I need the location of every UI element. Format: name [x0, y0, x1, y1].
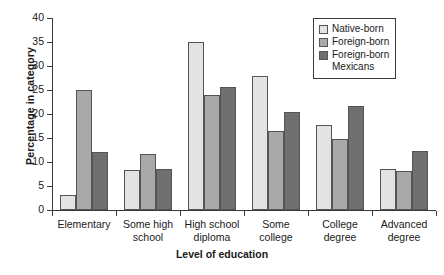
y-tick-label: 15	[32, 131, 44, 143]
x-tick	[372, 211, 373, 216]
bar	[124, 170, 140, 210]
legend-swatch-icon	[319, 25, 328, 34]
y-tick-label: 25	[32, 83, 44, 95]
x-tick	[52, 211, 53, 216]
y-tick: 10	[47, 162, 52, 163]
bar	[188, 42, 204, 210]
y-tick-label: 10	[32, 155, 44, 167]
bar	[220, 87, 236, 210]
y-tick-label: 35	[32, 35, 44, 47]
x-tick	[244, 211, 245, 216]
y-tick: 15	[47, 138, 52, 139]
legend-label: Foreign-born	[332, 36, 389, 48]
bar	[316, 125, 332, 210]
y-tick: 35	[47, 42, 52, 43]
legend-swatch-icon	[319, 38, 328, 47]
bar	[60, 195, 76, 210]
bar	[76, 90, 92, 210]
x-axis-title: Level of education	[0, 248, 444, 260]
bar	[204, 95, 220, 210]
legend-item: Native-born	[319, 23, 389, 35]
bar	[332, 139, 348, 210]
y-tick-label: 30	[32, 59, 44, 71]
y-tick: 30	[47, 66, 52, 67]
bar	[412, 151, 428, 210]
x-tick	[436, 211, 437, 216]
bar	[380, 169, 396, 210]
bar-chart: Percentage in category 0510152025303540 …	[0, 0, 444, 275]
y-tick-label: 20	[32, 107, 44, 119]
y-tick-label: 40	[32, 11, 44, 23]
y-tick: 20	[47, 114, 52, 115]
bar	[140, 154, 156, 210]
y-tick: 25	[47, 90, 52, 91]
bar	[396, 171, 412, 210]
bar	[268, 131, 284, 210]
bar	[156, 169, 172, 210]
x-tick	[116, 211, 117, 216]
x-tick	[180, 211, 181, 216]
y-axis-line	[52, 18, 53, 211]
legend-label: Native-born	[332, 23, 384, 35]
y-tick: 40	[47, 18, 52, 19]
legend-item: Foreign-born Mexicans	[319, 49, 389, 73]
y-tick: 5	[47, 186, 52, 187]
bar	[348, 106, 364, 210]
y-tick-label: 0	[38, 203, 44, 215]
legend-swatch-icon	[319, 51, 328, 60]
y-tick-label: 5	[38, 179, 44, 191]
legend: Native-bornForeign-bornForeign-born Mexi…	[313, 18, 396, 79]
bar	[92, 152, 108, 210]
bar	[284, 112, 300, 210]
x-axis-label: Advanced degree	[359, 218, 444, 243]
bar	[252, 76, 268, 210]
legend-label: Foreign-born Mexicans	[332, 49, 389, 73]
legend-item: Foreign-born	[319, 36, 389, 48]
x-tick	[308, 211, 309, 216]
